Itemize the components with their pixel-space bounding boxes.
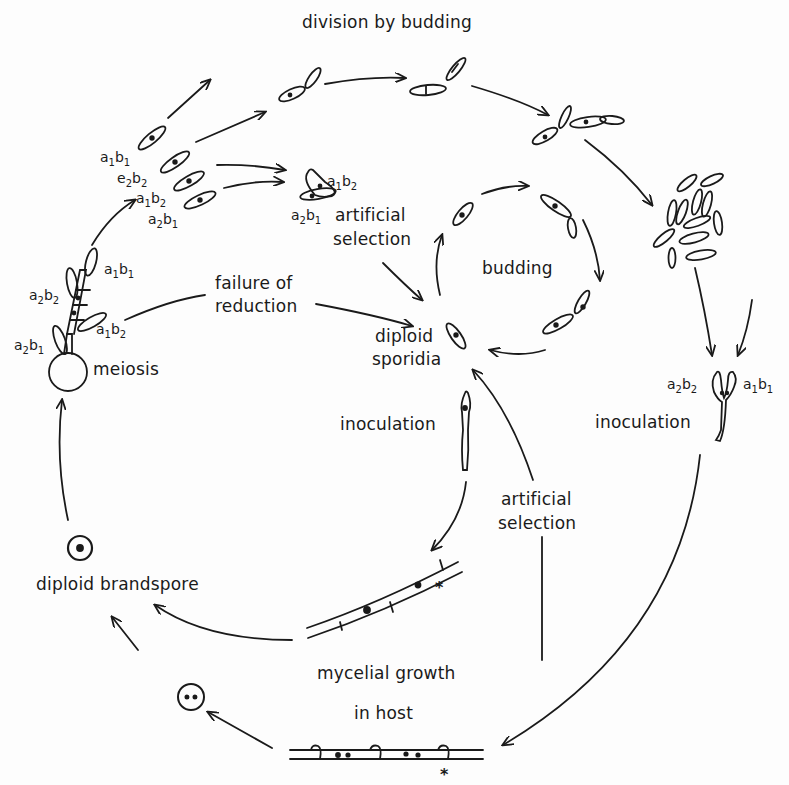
label-diploid-sporidia-1: diploid bbox=[375, 326, 433, 346]
genotype-a2b1-selection: a2b1 bbox=[291, 207, 321, 226]
genotype-a1b2-sporidia: a1b2 bbox=[136, 190, 166, 209]
label-artificial-selection-top-1: artificial bbox=[335, 205, 406, 225]
asterisk-mycelium: * bbox=[440, 765, 449, 785]
label-mycelial-growth-2: in host bbox=[354, 703, 413, 723]
label-meiosis: meiosis bbox=[93, 359, 159, 379]
label-failure-of-reduction-1: failure of bbox=[215, 273, 293, 293]
label-artificial-selection-top-2: selection bbox=[333, 229, 411, 249]
asterisk-hypha: * bbox=[435, 578, 444, 598]
label-division-by-budding: division by budding bbox=[302, 12, 472, 32]
host-mycelium-icon bbox=[290, 746, 483, 760]
genotype-a1b1-sporidia: a1b1 bbox=[100, 149, 130, 168]
diploid-brandspore-icon bbox=[68, 536, 92, 560]
sporidia-cluster-icon bbox=[651, 171, 724, 268]
label-inoculation-center: inoculation bbox=[340, 414, 436, 434]
genotype-a1b1-meiosis: a1b1 bbox=[104, 261, 134, 280]
label-failure-of-reduction-2: reduction bbox=[215, 296, 297, 316]
genotype-a1b2-meiosis: a1b2 bbox=[96, 321, 126, 340]
genotype-a2b1-sporidia: a2b1 bbox=[148, 211, 178, 230]
genotype-a2b2-inoculation: a2b2 bbox=[667, 376, 697, 395]
conjugation-tube-icon bbox=[713, 372, 736, 441]
label-mycelial-growth-1: mycelial growth bbox=[317, 663, 456, 683]
genotype-a2b1-meiosis: a2b1 bbox=[14, 337, 44, 356]
life-cycle-diagram: division by budding artificial selection… bbox=[0, 0, 789, 785]
label-diploid-sporidia-2: sporidia bbox=[372, 349, 441, 369]
infected-hypha-icon bbox=[307, 560, 462, 638]
budding-sporidia-top-icon bbox=[277, 56, 624, 148]
label-budding: budding bbox=[482, 258, 553, 278]
genotype-a2b2-meiosis: a2b2 bbox=[29, 287, 59, 306]
label-artificial-selection-bottom-1: artificial bbox=[501, 489, 572, 509]
genotype-a1b2-selection: a1b2 bbox=[327, 173, 357, 192]
genotype-a1b1-inoculation: a1b1 bbox=[743, 376, 773, 395]
inoculation-sporidium-icon bbox=[461, 392, 470, 471]
label-artificial-selection-bottom-2: selection bbox=[498, 513, 576, 533]
genotype-e2b2-sporidia: e2b2 bbox=[117, 170, 147, 189]
label-diploid-brandspore: diploid brandspore bbox=[36, 574, 199, 594]
label-inoculation-right: inoculation bbox=[595, 412, 691, 432]
binucleate-spore-icon bbox=[178, 684, 204, 710]
